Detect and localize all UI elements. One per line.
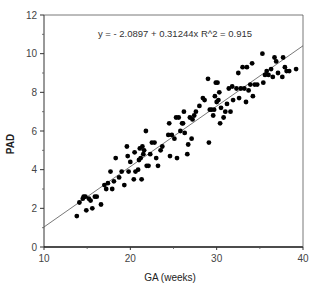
data-point (125, 154, 130, 159)
data-point (94, 194, 99, 199)
scatter-chart: 024681012 10203040 y = - 2.0897 + 0.3124… (0, 0, 311, 287)
data-point (211, 113, 216, 118)
data-point (176, 115, 181, 120)
data-point (110, 187, 115, 192)
data-point (219, 105, 224, 110)
data-point (218, 121, 223, 126)
data-point (117, 175, 122, 180)
data-point (108, 169, 113, 174)
data-point (269, 67, 274, 72)
data-point (248, 82, 253, 87)
data-points (74, 51, 298, 218)
data-point (266, 73, 271, 78)
y-tick-label: 12 (26, 10, 38, 21)
data-point (236, 71, 241, 76)
data-point (244, 100, 249, 105)
data-point (112, 179, 117, 184)
data-point (167, 121, 172, 126)
y-tick-label: 8 (31, 87, 37, 98)
data-point (148, 152, 153, 157)
data-point (84, 208, 89, 213)
x-tick-label: 40 (297, 253, 309, 264)
data-point (260, 51, 265, 56)
data-point (270, 75, 275, 80)
data-point (250, 61, 255, 66)
data-point (74, 214, 79, 219)
data-point (234, 86, 239, 91)
data-point (245, 65, 250, 70)
data-point (142, 148, 147, 153)
data-point (294, 67, 299, 72)
x-axis-title: GA (weeks) (144, 272, 196, 283)
data-point (230, 84, 235, 89)
data-point (221, 115, 226, 120)
data-point (138, 156, 143, 161)
data-point (215, 80, 220, 85)
data-point (106, 181, 111, 186)
data-point (255, 82, 260, 87)
data-point (113, 156, 118, 161)
data-point (139, 177, 144, 182)
data-point (217, 90, 222, 95)
data-point (160, 144, 165, 149)
x-tick-label: 30 (211, 253, 223, 264)
data-point (99, 202, 104, 207)
y-tick-label: 10 (26, 48, 38, 59)
data-point (122, 183, 127, 188)
data-point (132, 150, 137, 155)
data-point (131, 177, 136, 182)
data-point (168, 154, 173, 159)
data-point (223, 109, 228, 114)
data-point (126, 169, 131, 174)
data-point (156, 163, 161, 168)
data-point (246, 88, 251, 93)
data-point (231, 98, 236, 103)
data-point (276, 71, 281, 76)
data-point (182, 109, 187, 114)
data-point (281, 55, 286, 60)
data-point (237, 96, 242, 101)
data-point (207, 140, 212, 145)
data-point (104, 187, 109, 192)
x-axis: 10203040 (38, 247, 309, 264)
data-point (119, 169, 124, 174)
data-point (212, 107, 217, 112)
data-point (77, 200, 82, 205)
data-point (136, 167, 141, 172)
y-axis: 024681012 (26, 10, 44, 253)
data-point (216, 98, 221, 103)
y-axis-title: PAD (5, 134, 16, 154)
data-point (172, 136, 177, 141)
plot-frame (44, 15, 303, 247)
data-point (152, 140, 157, 145)
data-point (181, 121, 186, 126)
data-point (128, 160, 133, 165)
data-point (274, 59, 279, 64)
data-point (154, 156, 159, 161)
data-point (287, 69, 292, 74)
data-point (90, 206, 95, 211)
data-point (280, 75, 285, 80)
data-point (146, 163, 151, 168)
data-point (186, 142, 191, 147)
x-tick-label: 10 (38, 253, 50, 264)
data-point (202, 98, 207, 103)
data-point (213, 94, 218, 99)
y-tick-label: 2 (31, 203, 37, 214)
data-point (189, 136, 194, 141)
data-point (125, 144, 130, 149)
data-point (144, 129, 149, 134)
x-tick-label: 20 (125, 253, 137, 264)
y-tick-label: 0 (31, 242, 37, 253)
data-point (185, 152, 190, 157)
data-point (261, 80, 266, 85)
data-point (240, 65, 245, 70)
data-point (228, 109, 233, 114)
data-point (175, 156, 180, 161)
data-point (88, 198, 93, 203)
data-point (182, 131, 187, 136)
data-point (242, 86, 247, 91)
data-point (225, 102, 230, 107)
data-point (206, 76, 211, 81)
data-point (197, 104, 202, 109)
